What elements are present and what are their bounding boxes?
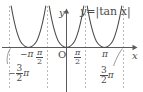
fraction-half-pi: π 2 bbox=[74, 49, 81, 66]
origin-label: O bbox=[58, 50, 66, 60]
graph-figure: y=|tan x| y x O −π π 2 π 2 π − 3 2 π 3 2… bbox=[0, 0, 143, 92]
fraction-numerator: π bbox=[74, 49, 81, 57]
fraction-denominator: 2 bbox=[74, 57, 81, 66]
tan-branch-left bbox=[11, 6, 46, 48]
callout-minus-sign: − bbox=[8, 68, 16, 78]
callout-pi-symbol: π bbox=[108, 70, 114, 80]
fraction-numerator: 3 bbox=[100, 66, 108, 75]
callout-neg-three-halves-pi: − 3 2 π bbox=[8, 64, 29, 83]
x-axis-label: x bbox=[132, 51, 138, 61]
fraction-denominator: 2 bbox=[100, 75, 108, 85]
tick-label-pi: π bbox=[102, 50, 108, 59]
function-label: y=|tan x| bbox=[80, 6, 131, 17]
tick-label-neg-half-pi: π 2 bbox=[36, 49, 43, 66]
fraction-numerator: π bbox=[36, 49, 43, 57]
fraction-neg-half-pi: π 2 bbox=[36, 49, 43, 66]
callout-three-halves-pi: 3 2 π bbox=[100, 66, 114, 85]
tick-label-neg-pi: −π bbox=[20, 50, 33, 59]
y-axis-label: y bbox=[59, 8, 65, 18]
function-label-body: |tan x| bbox=[95, 5, 130, 18]
fraction-three-halves: 3 2 bbox=[100, 66, 108, 85]
leader-line-right bbox=[114, 49, 123, 67]
fraction-denominator: 2 bbox=[36, 57, 43, 66]
tick-label-half-pi: π 2 bbox=[74, 49, 81, 66]
callout-pi-symbol: π bbox=[23, 68, 29, 78]
